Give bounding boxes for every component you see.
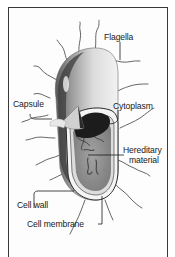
label-hereditary-material-line1: Hereditary bbox=[123, 146, 162, 155]
label-capsule: Capsule bbox=[13, 100, 44, 109]
label-hereditary-material-line2: material bbox=[129, 156, 159, 165]
label-cell-membrane: Cell membrane bbox=[27, 220, 84, 229]
label-cell-wall: Cell wall bbox=[17, 201, 48, 210]
label-flagella: Flagella bbox=[104, 33, 133, 42]
label-cytoplasm: Cytoplasm bbox=[113, 102, 153, 111]
